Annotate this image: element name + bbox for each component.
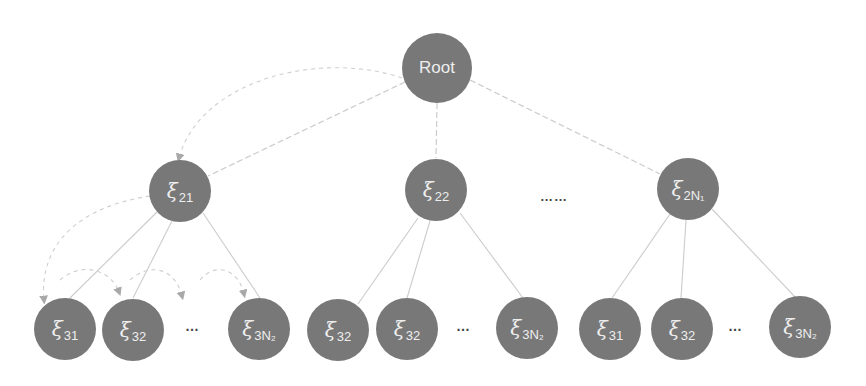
level2-ellipsis: …… <box>540 189 568 204</box>
node-subscript: 3N₂ <box>795 326 817 341</box>
node-xi-31: ξ31 <box>579 298 641 360</box>
node-xi-32: ξ32 <box>651 298 713 360</box>
node-xi-3N2: ξ3N₂ <box>496 297 558 359</box>
node-xi-3N2: ξ3N₂ <box>769 296 831 358</box>
node-subscript: 32 <box>132 329 146 344</box>
root-node: Root <box>402 33 472 103</box>
node-symbol: ξ <box>242 317 253 341</box>
node-xi-31: ξ31 <box>34 298 96 360</box>
level2-edges <box>70 209 796 304</box>
node-xi-21: ξ21 <box>149 160 211 222</box>
node-symbol: ξ <box>394 317 405 341</box>
node-symbol: ξ <box>325 318 336 342</box>
node-subscript: 32 <box>406 328 420 343</box>
node-subscript: 31 <box>609 328 623 343</box>
node-subscript: 32 <box>337 329 351 344</box>
node-symbol: ξ <box>167 179 178 203</box>
node-subscript: 3N₂ <box>522 327 544 342</box>
node-xi-32: ξ32 <box>102 299 164 361</box>
level3-ellipsis: … <box>185 318 200 334</box>
node-xi-32: ξ32 <box>376 298 438 360</box>
node-symbol: ξ <box>120 318 131 342</box>
level3-ellipsis: … <box>728 318 743 334</box>
node-symbol: ξ <box>671 177 682 201</box>
node-symbol: ξ <box>783 315 794 339</box>
node-subscript: 3N₂ <box>254 328 276 343</box>
node-symbol: ξ <box>510 316 521 340</box>
node-symbol: ξ <box>52 317 63 341</box>
node-subscript: 22 <box>435 189 449 204</box>
node-xi-2N1: ξ2N₁ <box>657 158 719 220</box>
root-label: Root <box>419 58 455 78</box>
level3-ellipsis: … <box>456 318 471 334</box>
node-subscript: 2N₁ <box>684 188 705 203</box>
dashed-arrows <box>44 68 402 300</box>
node-subscript: 32 <box>681 328 695 343</box>
node-xi-3N2: ξ3N₂ <box>228 298 290 360</box>
node-symbol: ξ <box>669 317 680 341</box>
node-symbol: ξ <box>423 178 434 202</box>
node-subscript: 21 <box>179 190 193 205</box>
node-xi-22: ξ22 <box>405 159 467 221</box>
node-subscript: 31 <box>64 328 78 343</box>
node-xi-32: ξ32 <box>307 299 369 361</box>
node-symbol: ξ <box>597 317 608 341</box>
